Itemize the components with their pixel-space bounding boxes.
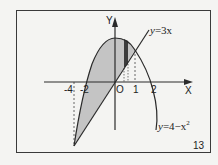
tick-label-neg2: -2: [80, 85, 89, 95]
origin-label: O: [116, 85, 124, 95]
line-equation-label: y=3x: [150, 25, 172, 36]
tick-label-2: 2: [151, 85, 157, 95]
y-axis-label: Y: [106, 16, 113, 26]
tick-label-neg4: -4: [64, 85, 73, 95]
x-axis-label: X: [185, 86, 192, 96]
parabola-equation-label: y=4−x2: [158, 120, 190, 132]
figure-number: 13: [193, 141, 204, 151]
tick-label-1: 1: [133, 85, 139, 95]
